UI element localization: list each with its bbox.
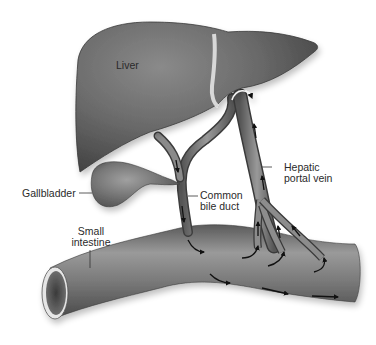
gallbladder — [91, 162, 180, 207]
common-bile-duct-label: Common bile duct — [200, 190, 243, 212]
hepatic-portal-vein-label: Hepatic portal vein — [284, 162, 332, 184]
gallbladder-label: Gallbladder — [22, 188, 76, 199]
small-intestine-label: Small intestine — [66, 226, 116, 248]
liver-label: Liver — [116, 60, 139, 71]
